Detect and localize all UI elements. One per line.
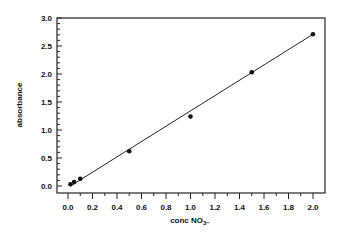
x-tick-label: 0.4 [111,203,123,212]
x-tick-label: 0.0 [62,203,74,212]
x-tick-label: 1.4 [234,203,246,212]
data-point [311,32,316,37]
x-tick-label: 0.8 [160,203,172,212]
plot-frame [57,18,325,193]
data-point [127,149,132,154]
y-tick-label: 1.0 [41,126,53,135]
data-point [78,176,83,181]
data-point [249,70,254,75]
x-tick-label: 1.6 [258,203,270,212]
y-axis-label: absorbance [15,82,24,127]
y-tick-label: 1.5 [41,98,53,107]
x-tick-label: 1.2 [209,203,221,212]
chart: 0.00.51.01.52.02.53.0 0.00.20.40.60.81.0… [0,0,344,243]
x-tick-label: 2.0 [307,203,319,212]
x-axis-label: conc NO3− [170,216,210,226]
plot-border [57,18,325,193]
x-tick-label: 0.2 [87,203,99,212]
data-series [68,32,315,187]
y-tick-label: 0.0 [41,182,53,191]
y-tick-label: 0.5 [41,154,53,163]
y-tick-label: 3.0 [41,14,53,23]
y-tick-label: 2.5 [41,42,53,51]
data-point [188,114,193,119]
y-axis: 0.00.51.01.52.02.53.0 [41,14,62,191]
x-axis: 0.00.20.40.60.81.01.21.41.61.82.0 [62,193,319,212]
x-tick-label: 1.8 [283,203,295,212]
data-point [72,180,77,185]
y-tick-label: 2.0 [41,70,53,79]
fit-line [70,34,313,186]
x-tick-label: 1.0 [185,203,197,212]
x-tick-label: 0.6 [136,203,148,212]
